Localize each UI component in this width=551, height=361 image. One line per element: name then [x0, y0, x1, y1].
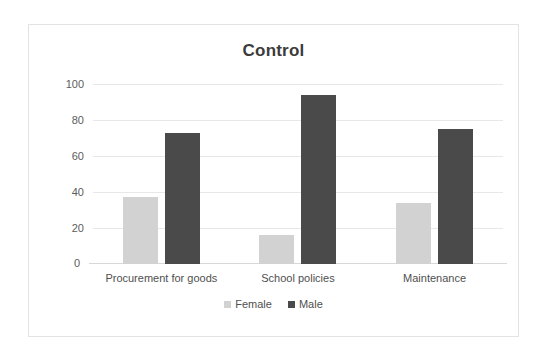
- bar-male-procurement-for-goods[interactable]: [165, 133, 200, 264]
- category-label-2: Maintenance: [366, 272, 503, 284]
- bar-group-procurement-for-goods: [93, 84, 230, 264]
- category-label-1: School policies: [230, 272, 367, 284]
- legend-swatch-female-icon: [224, 301, 231, 308]
- bar-female-maintenance[interactable]: [396, 203, 431, 264]
- y-tick-label-100: 100: [66, 78, 84, 90]
- legend-label-female: Female: [235, 298, 272, 310]
- bar-male-maintenance[interactable]: [438, 129, 473, 264]
- bar-female-procurement-for-goods[interactable]: [123, 197, 158, 264]
- legend-swatch-male-icon: [288, 301, 295, 308]
- y-tick-label-60: 60: [72, 150, 84, 162]
- chart-legend: Female Male: [29, 298, 518, 310]
- legend-item-male[interactable]: Male: [288, 298, 323, 310]
- bar-male-school-policies[interactable]: [301, 95, 336, 264]
- legend-label-male: Male: [299, 298, 323, 310]
- y-tick-label-40: 40: [72, 186, 84, 198]
- y-tick-label-80: 80: [72, 114, 84, 126]
- bar-female-school-policies[interactable]: [259, 235, 294, 264]
- chart-frame: Control 100 80 60 40 20 0: [28, 24, 519, 337]
- bar-series-container: [93, 84, 503, 264]
- chart-title: Control: [29, 41, 518, 61]
- legend-item-female[interactable]: Female: [224, 298, 272, 310]
- bar-group-school-policies: [230, 84, 367, 264]
- plot-area: 100 80 60 40 20 0: [93, 84, 503, 264]
- y-tick-label-20: 20: [72, 222, 84, 234]
- category-axis: Procurement for goods School policies Ma…: [93, 272, 503, 284]
- category-label-0: Procurement for goods: [93, 272, 230, 284]
- bar-group-maintenance: [366, 84, 503, 264]
- y-tick-label-0: 0: [74, 257, 80, 269]
